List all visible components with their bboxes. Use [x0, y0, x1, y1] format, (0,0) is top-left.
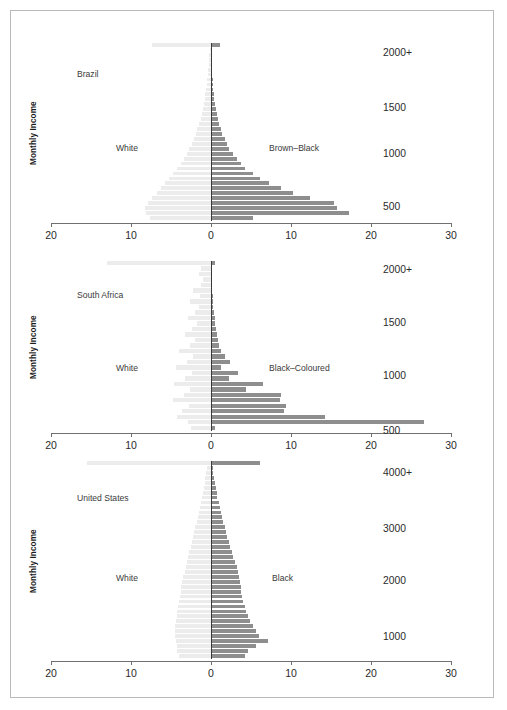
bar-right — [211, 585, 241, 589]
bar-right — [211, 382, 263, 386]
bar-left — [201, 283, 211, 287]
bar-right — [211, 43, 220, 47]
bar-right — [211, 211, 349, 215]
y-tick-label: 2000+ — [383, 47, 412, 58]
bar-left — [202, 496, 211, 500]
x-tick-mark — [371, 223, 372, 227]
bar-right — [211, 590, 241, 594]
bar-right — [211, 545, 230, 549]
bar-left — [173, 172, 211, 176]
bar-left — [181, 162, 211, 166]
x-tick-label: 10 — [271, 667, 311, 679]
y-tick-label: 1500 — [383, 317, 406, 328]
bar-left — [184, 393, 211, 397]
bar-left — [193, 535, 211, 539]
bar-left — [187, 560, 211, 564]
x-tick-mark — [291, 223, 292, 227]
x-tick-label: 10 — [271, 439, 311, 451]
right-series-label: Brown–Black — [269, 143, 319, 153]
panel-united_states: Monthly Income201001020304000+3000200010… — [11, 451, 495, 699]
bar-left — [196, 132, 211, 136]
bar-left — [185, 332, 211, 336]
bar-left — [192, 371, 211, 375]
bar-right — [211, 550, 232, 554]
bar-left — [185, 376, 211, 380]
bar-left — [177, 415, 211, 419]
bar-left — [194, 137, 211, 141]
bar-right — [211, 132, 222, 136]
bar-right — [211, 600, 243, 604]
bar-left — [146, 211, 211, 215]
left-series-label: White — [116, 143, 138, 153]
bar-right — [211, 142, 227, 146]
x-tick-mark — [371, 661, 372, 665]
bar-right — [211, 560, 235, 564]
bar-left — [178, 605, 211, 609]
x-tick-label: 30 — [431, 229, 471, 241]
bar-right — [211, 349, 221, 353]
bar-right — [211, 634, 259, 638]
bar-right — [211, 515, 222, 519]
bar-left — [161, 186, 211, 190]
bar-right — [211, 152, 233, 156]
bar-right — [211, 157, 237, 161]
x-tick-label: 10 — [271, 229, 311, 241]
bar-left — [176, 365, 211, 369]
bar-left — [177, 614, 211, 618]
bar-left — [199, 272, 211, 276]
y-tick-label: 1000 — [383, 148, 406, 159]
bar-left — [188, 316, 211, 320]
bar-right — [211, 540, 229, 544]
bar-left — [203, 107, 211, 111]
bar-left — [199, 122, 211, 126]
bar-left — [165, 181, 211, 185]
bar-left — [176, 639, 211, 643]
bar-right — [211, 393, 281, 397]
bar-left — [190, 299, 211, 303]
zero-line — [211, 461, 212, 659]
bar-right — [211, 420, 424, 424]
bar-left — [203, 491, 211, 495]
bar-right — [211, 387, 246, 391]
bar-right — [211, 147, 229, 151]
bar-left — [186, 565, 211, 569]
bar-left — [183, 575, 211, 579]
bar-right — [211, 639, 268, 643]
x-tick-mark — [291, 433, 292, 437]
zero-line — [211, 261, 212, 431]
bar-right — [211, 360, 230, 364]
panel-brazil: Monthly Income201001020302000+1500100050… — [11, 21, 495, 249]
bar-right — [211, 196, 310, 200]
y-tick-label: 1500 — [383, 102, 406, 113]
bar-left — [181, 585, 211, 589]
x-tick-mark — [371, 433, 372, 437]
bar-left — [198, 515, 211, 519]
bar-left — [187, 360, 211, 364]
bar-left — [188, 420, 211, 424]
x-tick-mark — [51, 661, 52, 665]
bar-left — [195, 525, 211, 529]
bar-right — [211, 580, 240, 584]
bar-right — [211, 605, 245, 609]
x-tick-label: 20 — [351, 229, 391, 241]
panel-south_africa: Monthly Income201001020302000+1500100050… — [11, 249, 495, 469]
y-tick-label: 2000+ — [383, 264, 412, 275]
y-tick-label: 1000 — [383, 370, 406, 381]
x-tick-mark — [451, 661, 452, 665]
bar-left — [148, 201, 211, 205]
figure-frame: Monthly Income201001020302000+1500100050… — [10, 10, 494, 698]
bar-left — [195, 338, 211, 342]
bar-right — [211, 186, 281, 190]
bar-right — [211, 570, 238, 574]
bar-right — [211, 506, 220, 510]
bar-right — [211, 644, 256, 648]
country-label: United States — [77, 493, 129, 503]
bar-left — [87, 461, 211, 465]
bar-left — [184, 157, 211, 161]
bar-left — [202, 112, 211, 116]
bar-right — [211, 530, 226, 534]
bar-left — [157, 191, 211, 195]
bar-left — [150, 216, 211, 220]
bar-right — [211, 177, 260, 181]
bar-left — [179, 349, 211, 353]
